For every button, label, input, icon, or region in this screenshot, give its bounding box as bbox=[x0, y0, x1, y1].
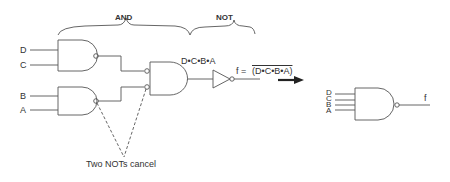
eq-input-a: A bbox=[326, 107, 331, 115]
nand-gate-2 bbox=[58, 87, 97, 115]
input-a-label: A bbox=[20, 106, 26, 115]
input-b-label: B bbox=[20, 92, 26, 101]
and-gate-inverted-inputs bbox=[150, 62, 188, 95]
circuit-drawing bbox=[0, 0, 450, 182]
logic-diagram: AND NOT D C B A D•C•B•A f = (D•C•B•A) Tw… bbox=[0, 0, 450, 182]
not-gate bbox=[213, 70, 230, 88]
not-brace bbox=[190, 20, 255, 35]
intermediate-expression: D•C•B•A bbox=[181, 57, 215, 66]
output-prefix: f = bbox=[236, 67, 246, 76]
right-arrow-icon bbox=[278, 76, 304, 84]
input-c-label: C bbox=[20, 61, 27, 70]
nand-gate-1 bbox=[58, 40, 97, 71]
and-section-label: AND bbox=[115, 14, 132, 22]
nand-gate-4-input bbox=[355, 88, 394, 120]
annotation-text: Two NOTs cancel bbox=[86, 160, 156, 169]
not-section-label: NOT bbox=[216, 14, 233, 22]
input-d-label: D bbox=[20, 46, 27, 55]
output-expression: (D•C•B•A) bbox=[252, 67, 292, 76]
eq-output-f: f bbox=[424, 94, 427, 103]
